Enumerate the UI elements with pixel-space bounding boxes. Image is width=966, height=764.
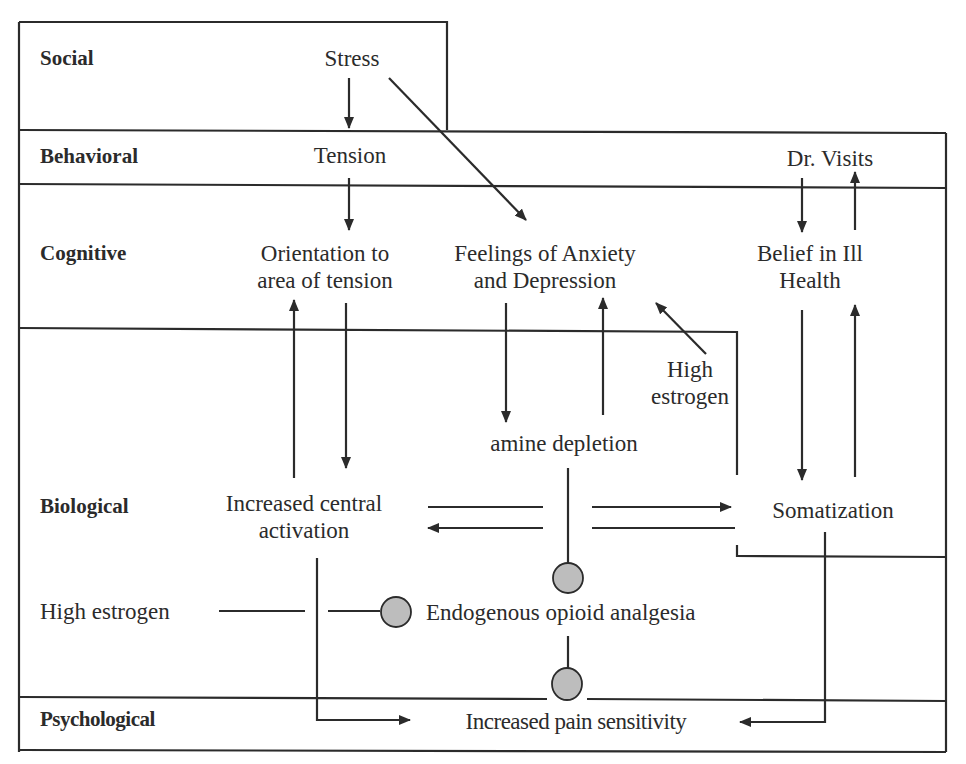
node-high-estrogen-upper: High estrogen	[640, 356, 740, 410]
node-endogenous-opioid-analgesia: Endogenous opioid analgesia	[426, 599, 696, 626]
frame-bottom	[19, 750, 946, 752]
node-central-activation: Increased central activation	[194, 490, 414, 544]
cognitive-top-border	[19, 184, 946, 188]
node-dr-visits: Dr. Visits	[760, 145, 900, 172]
inhibitor-node-amine	[553, 563, 583, 593]
band-label-social: Social	[40, 45, 94, 72]
node-tension: Tension	[290, 142, 410, 169]
diagram-lines	[0, 0, 966, 764]
node-stress: Stress	[302, 45, 402, 72]
inhibitor-node-estrogen	[381, 597, 411, 627]
psychological-top-border	[19, 697, 547, 699]
node-anxiety-depression: Feelings of Anxiety and Depression	[425, 240, 665, 294]
node-increased-pain-sensitivity: Increased pain sensitivity	[418, 708, 734, 735]
social-band-border	[19, 22, 447, 130]
node-high-estrogen-lower: High estrogen	[40, 598, 170, 625]
node-somatization: Somatization	[748, 497, 918, 524]
band-label-biological: Biological	[40, 493, 129, 520]
node-belief-ill-health: Belief in Ill Health	[730, 240, 890, 294]
node-orientation: Orientation to area of tension	[225, 240, 425, 294]
band-label-behavioral: Behavioral	[40, 143, 138, 170]
behavioral-top-border	[19, 130, 946, 133]
arrow-activation-pain	[317, 558, 410, 720]
band-label-cognitive: Cognitive	[40, 240, 126, 267]
arrow-estrogen-anxiety	[656, 303, 706, 354]
arrow-somatization-pain	[740, 532, 825, 722]
node-amine-depletion: amine depletion	[454, 430, 674, 457]
band-label-psychological: Psychological	[40, 706, 155, 733]
cognitive-bottom-border	[19, 328, 737, 344]
inhibitor-node-opioid	[552, 668, 582, 700]
